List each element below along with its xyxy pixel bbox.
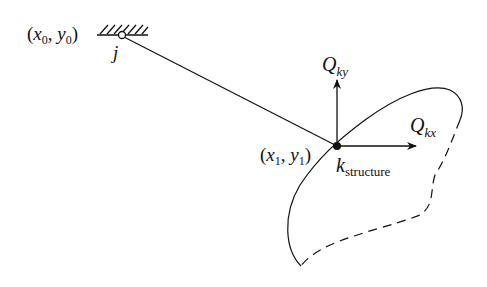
node-k xyxy=(333,142,341,150)
structure-outline-dashed xyxy=(301,120,460,266)
support-coordinates-label: (x0, y0) xyxy=(27,23,78,47)
structure-coordinates-label: (x1, y1) xyxy=(260,144,311,168)
node-k-label: kstructure xyxy=(336,154,391,179)
node-j xyxy=(119,32,126,39)
node-j-label: j xyxy=(110,42,118,63)
force-ky-label: Qky xyxy=(322,53,348,79)
member-line xyxy=(122,36,337,146)
structure-diagram: (x0, y0) j (x1, y1) kstructure Qky Qkx xyxy=(0,0,487,287)
force-kx-label: Qkx xyxy=(410,114,436,140)
